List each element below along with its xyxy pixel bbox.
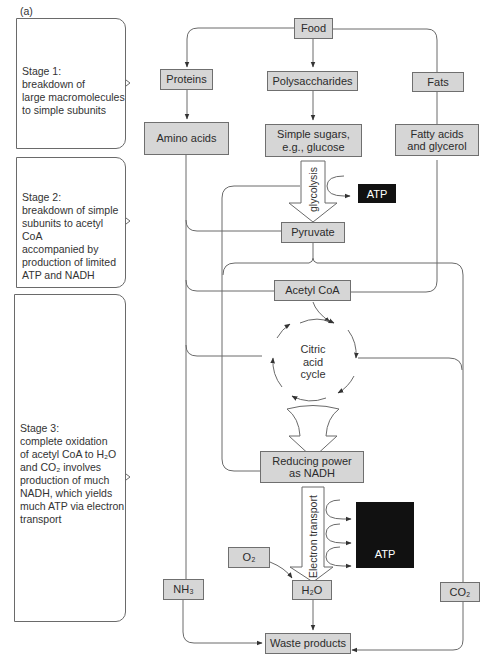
node-proteins: Proteins — [160, 69, 213, 90]
atp-electron-transport-output: ATP — [356, 502, 414, 568]
citric-line: cycle — [283, 368, 343, 381]
node-amino-acids: Amino acids — [144, 122, 229, 155]
citric-acid-cycle-label: Citric acid cycle — [283, 343, 343, 381]
fatty-acids-line: Fatty acids — [410, 128, 463, 141]
node-fats: Fats — [412, 72, 464, 92]
node-o2: O₂ — [228, 547, 270, 568]
node-food: Food — [294, 18, 333, 39]
node-fatty-acids: Fatty acids and glycerol — [395, 124, 479, 156]
simple-sugars-line: e.g., glucose — [282, 141, 344, 154]
node-polysaccharides: Polysaccharides — [267, 71, 358, 91]
node-h2o: H₂O — [292, 580, 332, 600]
citric-line: Citric — [283, 343, 343, 356]
simple-sugars-line: Simple sugars, — [277, 128, 350, 141]
node-acetyl-coa: Acetyl CoA — [274, 280, 351, 301]
node-pyruvate: Pyruvate — [281, 222, 345, 243]
glycolysis-label: glycolysis — [307, 167, 319, 212]
node-co2: CO₂ — [440, 582, 480, 602]
node-simple-sugars: Simple sugars, e.g., glucose — [265, 124, 362, 157]
node-reducing-power-nadh: Reducing power as NADH — [260, 451, 364, 483]
node-nh3: NH₃ — [163, 579, 204, 600]
fatty-acids-line: and glycerol — [407, 140, 466, 153]
node-waste-products: Waste products — [265, 633, 351, 654]
citric-line: acid — [283, 356, 343, 369]
nadh-line: Reducing power — [272, 455, 352, 468]
atp-glycolysis-output: ATP — [358, 184, 396, 203]
atp-large-label: ATP — [375, 548, 396, 560]
electron-transport-label: Electron transport — [307, 495, 319, 578]
nadh-line: as NADH — [289, 467, 335, 480]
